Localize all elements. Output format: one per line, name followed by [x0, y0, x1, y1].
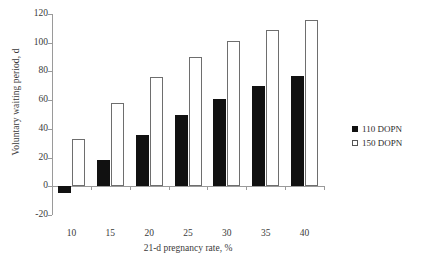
x-tick-label: 25	[168, 228, 208, 238]
legend-label: 110 DOPN	[362, 124, 402, 134]
x-tickmark	[169, 186, 170, 190]
bar-110-dopn-10	[58, 186, 71, 193]
legend-item: 110 DOPN	[352, 122, 424, 136]
y-tickmark	[48, 71, 52, 72]
y-tickmark	[48, 215, 52, 216]
bar-150-dopn-10	[72, 139, 85, 186]
x-tickmark	[91, 186, 92, 190]
y-tickmark	[48, 14, 52, 15]
bar-150-dopn-35	[266, 30, 279, 186]
bar-group	[97, 14, 124, 215]
bar-150-dopn-40	[305, 20, 318, 187]
bar-group	[175, 14, 202, 215]
bar-group	[213, 14, 240, 215]
y-tick-label: 120	[18, 9, 48, 19]
x-tick-label: 35	[246, 228, 286, 238]
bar-chart-figure: Voluntary waiting period, d -20020406080…	[0, 0, 427, 269]
x-tickmark	[207, 186, 208, 190]
bar-150-dopn-25	[189, 57, 202, 186]
y-tick-label: -20	[18, 210, 48, 220]
bar-group	[291, 14, 318, 215]
y-axis-tick-labels: -20020406080100120	[18, 0, 48, 269]
bar-group	[252, 14, 279, 215]
legend-swatch-open-icon	[352, 140, 358, 146]
legend-swatch-filled-icon	[352, 126, 358, 132]
y-tickmark	[48, 186, 52, 187]
x-tick-label: 20	[129, 228, 169, 238]
x-tickmark	[246, 186, 247, 190]
y-tickmark	[48, 100, 52, 101]
chart-legend: 110 DOPN150 DOPN	[352, 122, 424, 150]
plot-area	[52, 14, 324, 215]
y-tickmark	[48, 43, 52, 44]
y-tick-label: 20	[18, 153, 48, 163]
x-tickmark	[324, 186, 325, 190]
y-tick-label: 100	[18, 38, 48, 48]
x-tick-label: 10	[51, 228, 91, 238]
bar-group	[58, 14, 85, 215]
bar-110-dopn-20	[136, 135, 149, 187]
x-tick-label: 15	[90, 228, 130, 238]
y-tick-label: 40	[18, 124, 48, 134]
bar-150-dopn-15	[111, 103, 124, 186]
x-tick-label: 40	[285, 228, 325, 238]
x-tick-label: 30	[207, 228, 247, 238]
bar-150-dopn-20	[150, 77, 163, 186]
bar-110-dopn-30	[213, 99, 226, 187]
bar-110-dopn-15	[97, 160, 110, 186]
x-tickmark	[130, 186, 131, 190]
x-tickmark	[285, 186, 286, 190]
legend-item: 150 DOPN	[352, 136, 424, 150]
x-axis-title: 21-d pregnancy rate, %	[52, 243, 324, 253]
y-axis-line	[52, 14, 53, 215]
bar-150-dopn-30	[227, 41, 240, 186]
y-tick-label: 60	[18, 95, 48, 105]
y-tick-label: 0	[18, 181, 48, 191]
bar-110-dopn-25	[175, 115, 188, 187]
y-tickmark	[48, 129, 52, 130]
y-tick-label: 80	[18, 66, 48, 76]
y-tickmark	[48, 158, 52, 159]
x-axis-tick-labels: 10152025303540	[52, 228, 324, 240]
bar-group	[136, 14, 163, 215]
legend-label: 150 DOPN	[362, 138, 402, 148]
bar-110-dopn-35	[252, 86, 265, 187]
bar-110-dopn-40	[291, 76, 304, 187]
